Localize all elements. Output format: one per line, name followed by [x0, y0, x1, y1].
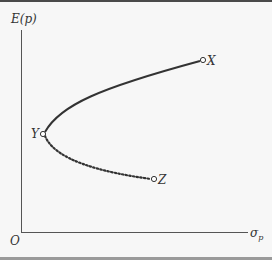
origin-label: O	[10, 234, 20, 248]
dotted-frontier-curve	[45, 136, 151, 179]
solid-frontier-curve	[45, 61, 200, 132]
x-axis-label-sub: p	[258, 233, 263, 242]
point-x-marker	[200, 57, 205, 62]
point-y-label: Y	[31, 127, 40, 141]
point-y-marker	[40, 131, 45, 136]
y-axis-label: E(p)	[10, 12, 37, 26]
point-z-label: Z	[157, 173, 167, 187]
point-x-label: X	[206, 54, 216, 68]
point-z-marker	[151, 176, 156, 181]
efficient-frontier-diagram: E(p) X Y Z O σp	[0, 0, 272, 260]
x-axis-label: σp	[250, 226, 263, 242]
